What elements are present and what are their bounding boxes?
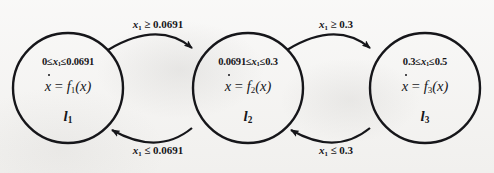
diagram-page: 0≤x1≤0.0691 x = f1(x) l1 0.0691≤x1≤0.3 x… [0, 0, 494, 173]
invariant-lower-l3: 0.3 [403, 56, 416, 67]
state-label-l1: l1 [0, 108, 136, 125]
state-invariant-l2: 0.0691≤x1≤0.3 [180, 56, 316, 67]
transition-arrow-l2-to-l1[interactable] [112, 128, 192, 143]
guard-value-t1: 0.0691 [153, 18, 183, 30]
state-flow-equation-l1: x = f1(x) [0, 78, 136, 95]
transition-guard-l1-to-l2: x1 ≥ 0.0691 [98, 18, 218, 31]
invariant-upper-l3: 0.5 [435, 56, 448, 67]
transition-guard-l2-to-l3: x1 ≥ 0.3 [276, 18, 396, 31]
flow-relation-l1: = [55, 78, 63, 94]
flow-relation-l3: = [412, 78, 420, 94]
invariant-upper-l1: 0.0691 [66, 56, 94, 67]
state-label-l2: l2 [180, 108, 316, 125]
flow-rhs-arg-l2: (x) [255, 78, 271, 94]
transition-arrow-l3-to-l2[interactable] [291, 128, 370, 143]
state-label-sub-l2: 2 [248, 115, 253, 125]
flow-lhs-l1: x [45, 78, 51, 95]
guard-var-sub-t2: 1 [138, 150, 141, 157]
guard-value-t3: 0.3 [339, 18, 353, 30]
transition-guard-l2-to-l1: x1 ≤ 0.0691 [98, 144, 218, 157]
guard-var-sub-t4: 1 [324, 150, 327, 157]
flow-rhs-arg-l1: (x) [75, 78, 91, 94]
state-label-l3: l3 [357, 108, 493, 125]
guard-rel-t2: ≤ [144, 144, 150, 156]
transition-guard-l3-to-l2: x1 ≤ 0.3 [276, 144, 396, 157]
invariant-upper-l2: 0.3 [265, 56, 278, 67]
state-invariant-l3: 0.3≤x1≤0.5 [357, 56, 493, 67]
state-invariant-l1: 0≤x1≤0.0691 [0, 56, 136, 67]
flow-lhs-l3: x [402, 78, 408, 95]
guard-rel-t4: ≤ [331, 144, 337, 156]
state-flow-equation-l2: x = f2(x) [180, 78, 316, 95]
state-label-sub-l3: 3 [425, 115, 430, 125]
guard-var-sub-t3: 1 [324, 24, 327, 31]
flow-lhs-l2: x [225, 78, 231, 95]
guard-value-t4: 0.3 [339, 144, 353, 156]
guard-rel-t1: ≥ [144, 18, 150, 30]
transition-arrow-l2-to-l3[interactable] [287, 34, 370, 50]
guard-value-t2: 0.0691 [153, 144, 183, 156]
state-label-sub-l1: 1 [68, 115, 73, 125]
guard-rel-t3: ≥ [331, 18, 337, 30]
state-flow-equation-l3: x = f3(x) [357, 78, 493, 95]
flow-rhs-arg-l3: (x) [432, 78, 448, 94]
flow-relation-l2: = [235, 78, 243, 94]
transition-arrow-l1-to-l2[interactable] [108, 34, 192, 50]
guard-var-sub-t1: 1 [138, 24, 141, 31]
invariant-lower-l2: 0.0691 [218, 56, 246, 67]
